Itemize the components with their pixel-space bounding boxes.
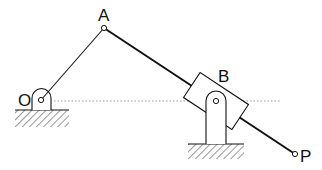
pin-a-icon [101,25,106,30]
label-p: P [300,147,311,166]
label-o: O [18,91,31,110]
crank-link-oa [41,28,104,100]
pin-o-icon [38,97,43,102]
mechanism-diagram: O A B P [0,0,322,170]
label-a: A [98,6,110,25]
label-b: B [218,67,229,86]
ground-support-b [188,144,244,159]
pin-b-icon [213,98,218,103]
pin-p-icon [292,151,297,156]
